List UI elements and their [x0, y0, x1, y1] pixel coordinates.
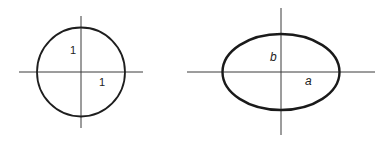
circle-and-ellipse-figure: 1 1 b a — [0, 0, 390, 141]
diagram-canvas: 1 1 b a — [0, 0, 390, 141]
circle-vertical-radius-label: 1 — [70, 44, 76, 56]
ellipse-semi-minor-label-b: b — [270, 50, 277, 64]
circle-horizontal-radius-label: 1 — [99, 76, 105, 88]
ellipse-semi-major-label-a: a — [305, 74, 312, 88]
ellipse-figure: b a — [187, 8, 375, 135]
unit-circle-figure: 1 1 — [19, 16, 143, 128]
